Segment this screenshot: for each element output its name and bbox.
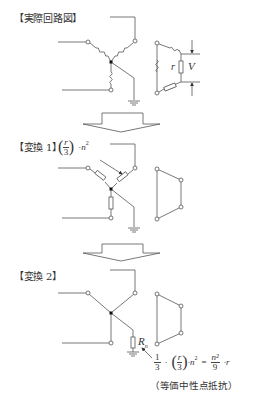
resistor-r-label: r xyxy=(171,61,175,72)
equivalent-neutral-resistance-caption: （等価中性点抵抗） xyxy=(150,378,237,392)
neutral-point xyxy=(110,61,113,64)
transform-arrow-2 xyxy=(83,244,160,261)
neutral-point xyxy=(110,188,113,191)
section-label-actual: 【実際回路図】 xyxy=(14,10,82,25)
neutral-resistor-label: Rn xyxy=(138,335,148,349)
transform1-impedance: (r3) ·n2 xyxy=(58,137,89,157)
section-label-transform1: 【変換 1】 xyxy=(14,139,62,154)
section3-circuit xyxy=(58,270,181,356)
circuit-diagram xyxy=(0,0,255,399)
transform-arrow-1 xyxy=(83,113,160,132)
section1-circuit xyxy=(58,17,200,105)
section-label-transform2: 【変換 2】 xyxy=(14,268,62,283)
equivalent-resistance-formula: 13 · (r3)·n2 = n²9 ·r xyxy=(154,352,229,372)
section2-circuit xyxy=(58,144,181,232)
neutral-point xyxy=(110,312,113,315)
voltage-label: V xyxy=(188,60,195,72)
